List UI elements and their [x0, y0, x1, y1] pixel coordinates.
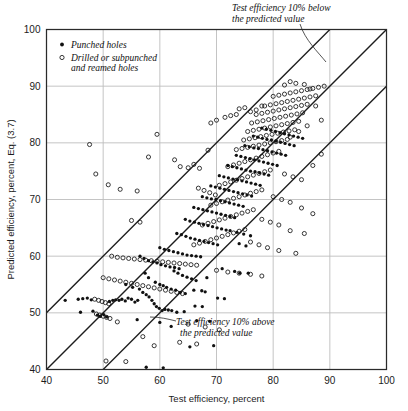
y-tick-90: 90: [29, 81, 41, 92]
y-tick-50: 50: [29, 307, 41, 318]
legend-label-drilled-line2: and reamed holes: [71, 63, 138, 73]
legend-label-drilled-line1: Drilled or subpunched: [70, 53, 157, 63]
upper-annotation-line2: the predicted value: [232, 14, 304, 24]
plot-background: [0, 0, 408, 411]
x-axis-title: Test efficiency, percent: [169, 393, 265, 404]
chart-figure: 405060708090100 405060708090100 Test eff…: [0, 0, 408, 411]
y-tick-40: 40: [29, 364, 41, 375]
x-tick-50: 50: [98, 375, 110, 386]
y-tick-100: 100: [24, 24, 41, 35]
upper-annotation-line1: Test efficiency 10% below: [232, 3, 331, 13]
x-tick-60: 60: [154, 375, 166, 386]
x-tick-70: 70: [211, 375, 223, 386]
y-tick-70: 70: [29, 194, 41, 205]
y-axis-title: Predicted efficiency, percent, Eq. (3.7): [5, 119, 16, 279]
lower-annotation-line2: the predicted value: [180, 328, 252, 338]
scatter-plot-svg: 405060708090100 405060708090100 Test eff…: [0, 0, 408, 411]
legend-marker-punched: [60, 43, 64, 47]
x-tick-80: 80: [268, 375, 280, 386]
x-tick-90: 90: [324, 375, 336, 386]
x-tick-40: 40: [41, 375, 53, 386]
y-tick-80: 80: [29, 137, 41, 148]
legend-label-punched: Punched holes: [70, 40, 127, 50]
x-tick-100: 100: [378, 375, 395, 386]
lower-annotation-line1: Test efficiency 10% above: [176, 317, 275, 327]
y-tick-60: 60: [29, 251, 41, 262]
